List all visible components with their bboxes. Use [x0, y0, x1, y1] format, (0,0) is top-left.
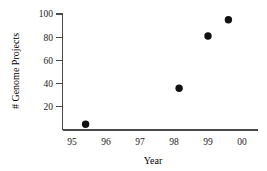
- x-axis-tick-labels: 95 96 97 98 99 00: [67, 137, 247, 147]
- y-tick-label-40: 40: [44, 79, 54, 89]
- data-point: [175, 85, 182, 92]
- data-point: [204, 32, 211, 39]
- y-tick-label-20: 20: [44, 102, 54, 112]
- x-axis-group: 95 96 97 98 99 00 Year: [63, 130, 259, 166]
- x-tick-label-00: 00: [237, 137, 247, 147]
- plot-canvas: 100 80 60 40 20 # Genome Projects 95 96 …: [0, 0, 267, 171]
- y-tick-label-100: 100: [39, 9, 54, 19]
- x-tick-label-97: 97: [135, 137, 145, 147]
- data-points-layer: [82, 16, 232, 128]
- scatter-plot-figure: 100 80 60 40 20 # Genome Projects 95 96 …: [0, 0, 267, 171]
- x-tick-label-98: 98: [169, 137, 179, 147]
- y-tick-label-60: 60: [44, 56, 54, 66]
- y-axis-group: 100 80 60 40 20 # Genome Projects: [10, 9, 63, 130]
- x-tick-label-96: 96: [101, 137, 111, 147]
- y-axis-tick-labels: 100 80 60 40 20: [39, 9, 54, 112]
- x-tick-label-95: 95: [67, 137, 77, 147]
- y-tick-label-80: 80: [44, 33, 54, 43]
- x-axis-title: Year: [144, 155, 163, 166]
- y-axis-title: # Genome Projects: [10, 33, 21, 109]
- data-point: [82, 121, 89, 128]
- data-point: [225, 16, 232, 23]
- y-axis-ticks: [56, 14, 63, 107]
- x-tick-label-99: 99: [203, 137, 213, 147]
